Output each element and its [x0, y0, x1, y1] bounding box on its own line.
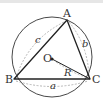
side-b-label: b	[82, 38, 88, 49]
radius-label: R	[63, 67, 72, 78]
side-a-label: a	[50, 80, 56, 91]
vertex-a-label: A	[62, 7, 72, 20]
triangle-abc	[14, 20, 90, 79]
center-label: O	[43, 52, 52, 65]
circumcircle-diagram: A B C O R a b c	[0, 0, 103, 105]
side-c-label: c	[35, 34, 41, 45]
vertex-b-label: B	[5, 73, 13, 86]
vertex-c-label: C	[92, 73, 100, 86]
